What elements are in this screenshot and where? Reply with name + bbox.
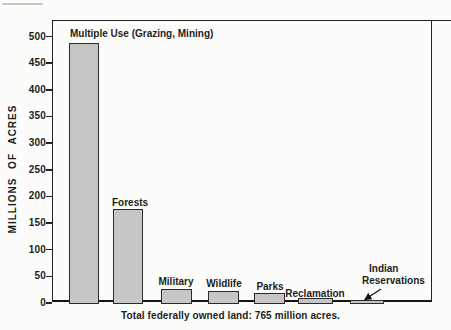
indian-label-line1: Indian	[369, 263, 425, 275]
y-tick-label-200: 200	[18, 190, 46, 202]
bar-forests	[113, 209, 143, 304]
bar-wildlife	[208, 291, 239, 304]
y-tick-mark-450	[46, 62, 52, 64]
y-tick-label-500: 500	[18, 31, 46, 43]
y-tick-mark-200	[46, 196, 52, 198]
bar-label-military: Military	[158, 276, 193, 287]
y-tick-label-350: 350	[18, 110, 46, 122]
y-tick-label-450: 450	[18, 57, 46, 69]
y-tick-mark-0	[46, 302, 52, 304]
y-tick-label-250: 250	[18, 164, 46, 176]
bar-label-parks: Parks	[256, 281, 283, 292]
y-tick-mark-500	[46, 36, 52, 38]
y-tick-mark-50	[46, 276, 52, 278]
y-tick-mark-150	[46, 222, 52, 224]
y-tick-label-300: 300	[18, 137, 46, 149]
y-tick-mark-100	[46, 249, 52, 251]
bar-military	[161, 289, 192, 304]
y-tick-mark-400	[46, 89, 52, 91]
y-tick-label-0: 0	[18, 297, 46, 309]
bar-parks	[254, 293, 285, 304]
bar-reclamation	[298, 298, 333, 304]
bar-multiple-use-grazing-mining	[69, 43, 99, 304]
bar-label-forests: Forests	[112, 197, 148, 208]
scan-artifact-line	[2, 3, 43, 5]
y-tick-label-150: 150	[18, 217, 46, 229]
y-tick-mark-350	[46, 116, 52, 118]
bar-label-multiple-use: Multiple Use (Grazing, Mining)	[70, 28, 213, 39]
bar-label-wildlife: Wildlife	[206, 278, 241, 289]
federal-land-use-bar-chart: MILLIONS OF ACRES Multiple Use (Grazing,…	[0, 0, 451, 330]
y-tick-label-50: 50	[18, 270, 46, 282]
bar-indian-reservations	[350, 300, 384, 304]
y-tick-mark-300	[46, 142, 52, 144]
y-tick-label-400: 400	[18, 84, 46, 96]
y-tick-mark-250	[46, 169, 52, 171]
plot-top-border-extension	[432, 20, 451, 21]
chart-caption: Total federally owned land: 765 million …	[40, 310, 421, 321]
plot-area	[52, 20, 432, 302]
y-tick-label-100: 100	[18, 244, 46, 256]
indian-label-line2: Reservations	[362, 275, 425, 287]
bar-label-indian-reservations: Indian Reservations	[362, 263, 425, 286]
